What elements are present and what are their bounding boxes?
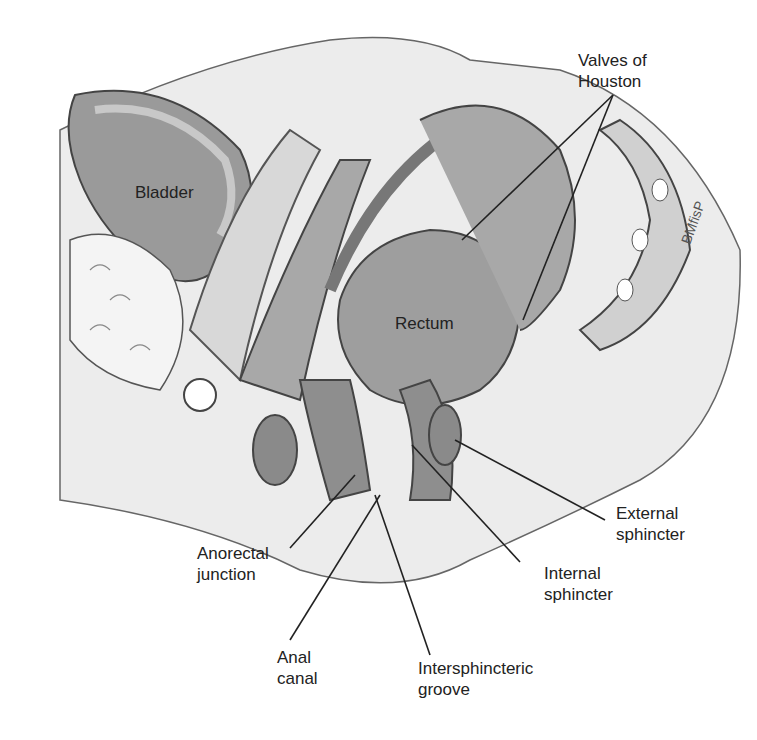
label-internal-sphincter: Internal sphincter <box>544 563 613 605</box>
label-bladder: Bladder <box>135 182 194 203</box>
external-sphincter-right <box>429 405 461 465</box>
external-sphincter-left <box>253 415 297 485</box>
anatomy-illustration: BMfisP <box>0 0 757 740</box>
label-external-sphincter: External sphincter <box>616 503 685 545</box>
label-intersphincteric-groove: Intersphincteric groove <box>418 658 533 700</box>
label-valves-of-houston: Valves of Houston <box>578 50 647 92</box>
label-anorectal-junction: Anorectal junction <box>197 543 269 585</box>
label-anal-canal: Anal canal <box>277 647 318 689</box>
label-rectum: Rectum <box>395 313 454 334</box>
